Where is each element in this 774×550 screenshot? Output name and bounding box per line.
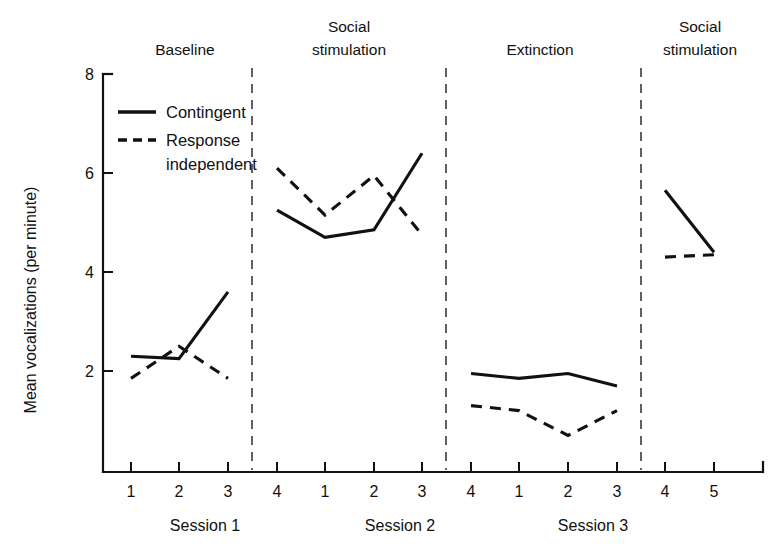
phase-label-social-1-line2: stimulation: [312, 41, 386, 58]
data-series-layer: [131, 153, 714, 435]
line-chart: Baseline Social stimulation Extinction S…: [0, 0, 774, 550]
series-contingent-segment-3: [471, 374, 617, 386]
legend: Contingent Response independent: [118, 103, 257, 173]
x-tick-label-12: 4: [661, 483, 670, 500]
x-tick-label-5: 1: [321, 483, 330, 500]
phase-label-baseline: Baseline: [155, 41, 214, 58]
phase-label-social-2-line2: stimulation: [663, 41, 737, 58]
phase-label-extinction: Extinction: [506, 41, 573, 58]
legend-label-contingent: Contingent: [166, 103, 246, 121]
x-tick-labels: 1 2 3 4 1 2 3 4 1 2 3 4 5: [127, 483, 719, 500]
session-label-1: Session 1: [170, 517, 240, 534]
series-contingent-segment-1: [131, 292, 228, 359]
x-tick-label-7: 3: [418, 483, 427, 500]
x-tick-label-2: 2: [175, 483, 184, 500]
x-tick-label-10: 2: [564, 483, 573, 500]
series-response-independent-segment-3: [471, 406, 617, 436]
legend-label-response-line2: independent: [166, 155, 257, 173]
x-tick-label-1: 1: [127, 483, 136, 500]
y-tick-marks: [103, 74, 113, 371]
session-label-3: Session 3: [558, 517, 628, 534]
series-response-independent-segment-4: [665, 255, 714, 257]
x-tick-label-9: 1: [515, 483, 524, 500]
phase-label-social-2-line1: Social: [679, 18, 721, 35]
legend-label-response-line1: Response: [166, 131, 240, 149]
y-axis-title: Mean vocalizations (per minute): [22, 187, 39, 414]
figure-container: Baseline Social stimulation Extinction S…: [0, 0, 774, 550]
phase-label-social-1-line1: Social: [328, 18, 370, 35]
y-tick-label-6: 6: [85, 165, 94, 182]
series-contingent-segment-4: [665, 190, 714, 252]
x-tick-label-4: 4: [273, 483, 282, 500]
y-tick-label-8: 8: [85, 66, 94, 83]
y-tick-label-4: 4: [85, 264, 94, 281]
x-tick-label-3: 3: [224, 483, 233, 500]
series-response-independent-segment-2: [277, 168, 422, 235]
x-tick-marks: [131, 462, 714, 472]
x-tick-label-6: 2: [370, 483, 379, 500]
x-tick-label-13: 5: [710, 483, 719, 500]
y-tick-label-2: 2: [85, 363, 94, 380]
phase-separators: [252, 68, 641, 470]
series-response-independent-segment-1: [131, 346, 228, 378]
x-tick-label-11: 3: [613, 483, 622, 500]
session-label-2: Session 2: [365, 517, 435, 534]
x-tick-label-8: 4: [467, 483, 476, 500]
